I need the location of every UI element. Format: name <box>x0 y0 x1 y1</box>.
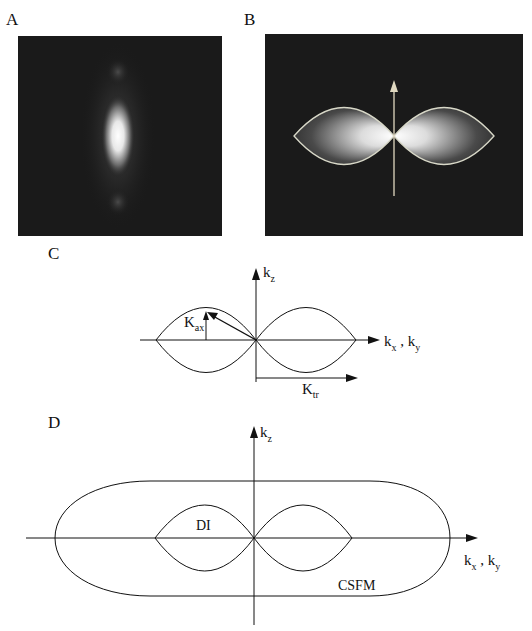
c-right-lobe <box>256 308 356 373</box>
panel-label-c: C <box>48 244 59 264</box>
d-di-label: DI <box>196 518 211 533</box>
panel-label-b: B <box>244 10 255 30</box>
c-kz-label: kz <box>263 264 276 284</box>
otf-lobes <box>265 34 523 236</box>
d-di-right-lobe <box>254 505 352 571</box>
c-kx-arrow-icon <box>368 336 380 344</box>
c-kz-arrow-icon <box>252 268 260 280</box>
c-kxy-label: kx , ky <box>384 333 420 353</box>
kz-arrow-head-icon <box>390 80 398 92</box>
otf-image <box>265 34 523 236</box>
psf-glow <box>18 36 222 236</box>
otf-left-lobe <box>294 108 394 165</box>
d-kz-arrow-icon <box>250 426 258 438</box>
d-csfm-label: CSFM <box>338 578 376 593</box>
panel-label-a: A <box>6 10 18 30</box>
c-ktr-label: Ktr <box>302 381 320 400</box>
c-diag-arrow-icon <box>207 312 218 320</box>
c-kax-label: Kax <box>184 314 204 333</box>
d-csfm-contour <box>55 481 450 596</box>
d-kxy-label: kx , ky <box>464 552 500 572</box>
c-ktr-arrow-icon <box>346 374 358 382</box>
otf-right-lobe <box>394 108 494 165</box>
panel-label-d: D <box>48 413 60 433</box>
psf-image <box>18 36 222 236</box>
c-kax-arrow-icon <box>203 311 209 320</box>
c-diag-arrow <box>213 316 256 340</box>
d-kx-arrow-icon <box>466 534 478 542</box>
c-left-lobe <box>156 308 256 373</box>
d-kz-label: kz <box>260 424 273 444</box>
d-di-left-lobe <box>155 505 254 571</box>
